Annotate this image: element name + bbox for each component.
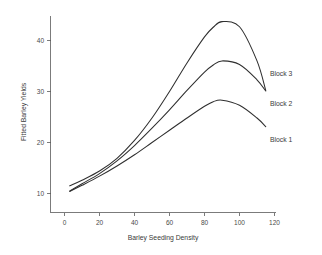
- y-tick-label-20: 20: [37, 139, 45, 146]
- y-tick-label-40: 40: [37, 37, 45, 44]
- x-tick-label-120: 120: [269, 219, 280, 226]
- series-label-block-1: Block 1: [270, 136, 293, 143]
- x-axis-title: Barley Seeding Density: [128, 234, 199, 242]
- y-axis-ticks: [47, 41, 51, 194]
- barley-yield-line-chart: 40 30 20 10 0 20 40 60 80 100 120 Barley…: [0, 0, 322, 255]
- y-tick-label-10: 10: [37, 190, 45, 197]
- y-axis-title: Fitted Barley Yields: [20, 82, 28, 141]
- y-tick-label-30: 30: [37, 88, 45, 95]
- curve-block-1: [70, 100, 266, 191]
- series-label-block-2: Block 2: [270, 100, 293, 107]
- x-tick-label-100: 100: [234, 219, 245, 226]
- series-label-block-3: Block 3: [270, 70, 293, 77]
- x-tick-label-20: 20: [96, 219, 104, 226]
- x-tick-label-60: 60: [166, 219, 174, 226]
- x-tick-label-40: 40: [131, 219, 139, 226]
- x-axis-ticks: [65, 213, 275, 217]
- chart-container: 40 30 20 10 0 20 40 60 80 100 120 Barley…: [0, 0, 322, 255]
- x-tick-label-0: 0: [63, 219, 67, 226]
- x-tick-label-80: 80: [201, 219, 209, 226]
